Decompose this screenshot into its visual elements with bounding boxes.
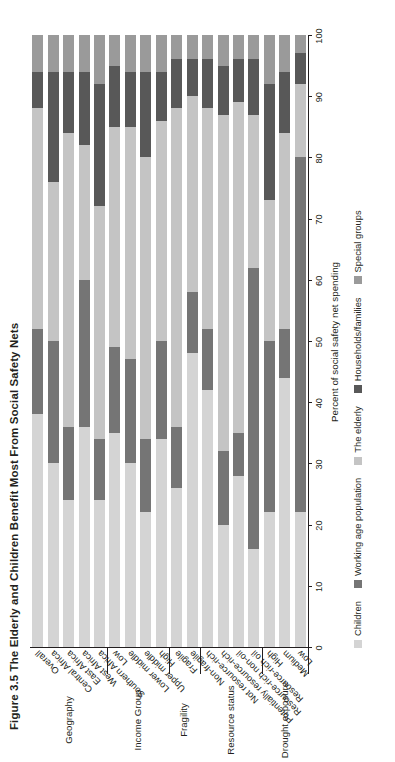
value-axis-title: Percent of social safety net spending [329, 36, 340, 648]
legend-swatch-icon [354, 640, 362, 648]
bar-segment-special-groups [63, 35, 74, 72]
legend-swatch-icon [354, 385, 362, 393]
bar-row [48, 35, 59, 647]
bar-segment-special-groups [48, 35, 59, 72]
bar-segment-the-elderly [94, 206, 105, 439]
group-separator [107, 648, 108, 674]
bar-segment-working-age-population [279, 329, 290, 378]
bar-row [295, 35, 306, 647]
group-label: Resource status [225, 640, 236, 762]
bar-segment-households-families [218, 66, 229, 115]
value-tick-label: 80 [314, 144, 324, 172]
bar-segment-households-families [295, 53, 306, 84]
legend-label: Households/families [352, 297, 363, 381]
plot-area: 0102030405060708090100 OverallCentral Af… [30, 36, 308, 648]
bar-segment-the-elderly [32, 108, 43, 328]
value-tick [308, 525, 312, 526]
bar-segment-households-families [94, 84, 105, 206]
bar-segment-children [279, 378, 290, 647]
bar-segment-children [218, 525, 229, 647]
bar-segment-working-age-population [48, 341, 59, 463]
legend-label: Special groups [352, 210, 363, 272]
bar-segment-the-elderly [279, 133, 290, 329]
bar-segment-children [233, 476, 244, 647]
bar-segment-households-families [248, 59, 259, 114]
figure-number: Figure 3.5 [8, 675, 20, 730]
bar-segment-the-elderly [295, 84, 306, 157]
bar-segment-the-elderly [125, 127, 136, 360]
bar-segment-working-age-population [233, 433, 244, 476]
value-tick [308, 157, 312, 158]
bar-row [187, 35, 198, 647]
bar-segment-working-age-population [171, 427, 182, 488]
bar-segment-working-age-population [218, 451, 229, 524]
bar-segment-the-elderly [187, 96, 198, 292]
legend-item: Households/families [352, 297, 363, 393]
bar-segment-children [125, 463, 136, 647]
value-tick-label: 50 [314, 328, 324, 356]
bar-segment-special-groups [233, 35, 244, 59]
bar-segment-households-families [125, 72, 136, 127]
bar-row [156, 35, 167, 647]
group-separator [262, 648, 263, 674]
bar-segment-children [32, 414, 43, 647]
value-tick-label: 90 [314, 83, 324, 111]
bar-segment-working-age-population [63, 427, 74, 500]
bar-segment-the-elderly [202, 108, 213, 328]
legend-label: Children [352, 601, 363, 636]
bar-segment-the-elderly [140, 157, 151, 439]
bar-segment-special-groups [295, 35, 306, 53]
value-tick [308, 586, 312, 587]
bar-segment-working-age-population [202, 329, 213, 390]
value-tick-label: 40 [314, 389, 324, 417]
bar-row [32, 35, 43, 647]
bar-segment-the-elderly [248, 115, 259, 268]
bar-segment-households-families [279, 72, 290, 133]
bar-segment-households-families [79, 72, 90, 145]
bar-segment-the-elderly [233, 102, 244, 432]
bar-segment-households-families [156, 72, 167, 121]
bar-segment-the-elderly [264, 200, 275, 341]
bar-segment-working-age-population [295, 157, 306, 512]
value-tick-label: 10 [314, 573, 324, 601]
bar-segment-households-families [264, 84, 275, 200]
bar-row [264, 35, 275, 647]
bar-segment-the-elderly [48, 182, 59, 341]
bar-row [279, 35, 290, 647]
bar-row [140, 35, 151, 647]
group-separator [169, 648, 170, 674]
bar-row [218, 35, 229, 647]
value-axis-line [308, 36, 309, 648]
bar-segment-working-age-population [125, 359, 136, 463]
bar-segment-special-groups [248, 35, 259, 59]
bar-segment-households-families [63, 72, 74, 133]
bar-segment-special-groups [109, 35, 120, 66]
value-tick-label: 0 [314, 634, 324, 662]
bar-segment-special-groups [202, 35, 213, 59]
bar-row [125, 35, 136, 647]
bar-row [248, 35, 259, 647]
bar-segment-working-age-population [109, 347, 120, 433]
bar-segment-the-elderly [171, 108, 182, 426]
legend-swatch-icon [354, 276, 362, 284]
value-tick-label: 20 [314, 512, 324, 540]
bar-segment-special-groups [32, 35, 43, 72]
bar-segment-children [248, 549, 259, 647]
chart-legend: ChildrenWorking age populationThe elderl… [352, 210, 363, 648]
bar-segment-working-age-population [187, 292, 198, 353]
bar-segment-special-groups [79, 35, 90, 72]
bar-segment-children [94, 500, 105, 647]
bar-segment-children [48, 463, 59, 647]
bar-row [94, 35, 105, 647]
bar-segment-children [264, 512, 275, 647]
value-tick [308, 35, 312, 36]
bar-segment-the-elderly [79, 145, 90, 280]
bar-segment-children [79, 427, 90, 647]
bar-segment-the-elderly [156, 121, 167, 341]
bar-segment-households-families [171, 60, 182, 109]
bar-segment-working-age-population [94, 439, 105, 500]
bar-segment-working-age-population [156, 341, 167, 439]
bar-segment-working-age-population [32, 329, 43, 415]
bar-row [79, 35, 90, 647]
